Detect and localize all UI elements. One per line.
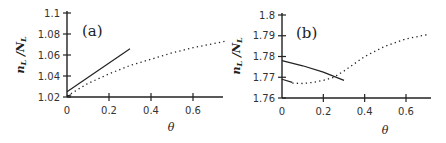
chart-panel-b: 1.761.771.781.791.800.20.40.6(b)nL /NLθ [230,10,431,138]
x-tick-label: 0.4 [143,105,159,116]
x-axis-label: θ [168,121,175,134]
x-tick-label: 0.4 [357,106,373,117]
y-tick-label: 1.1 [44,8,60,19]
panel-label: (a) [82,22,103,40]
x-tick-label: 0 [279,106,285,117]
y-tick-label: 1.04 [38,71,60,82]
series-solid [67,49,130,92]
x-tick-label: 0.2 [315,106,331,117]
y-tick-label: 1.02 [38,92,60,103]
y-tick-label: 1.8 [259,10,275,21]
y-tick-label: 1.79 [253,30,275,41]
y-tick-label: 1.77 [253,72,275,83]
x-tick-label: 0.2 [101,105,117,116]
y-tick-label: 1.76 [253,93,275,104]
chart-panel-a: 1.021.041.061.081.100.20.40.6(a)nL /NLθ [14,8,225,135]
figure: 1.021.041.061.081.100.20.40.6(a)nL /NLθ … [0,0,446,143]
y-tick-label: 1.78 [253,51,275,62]
y-tick-label: 1.08 [38,29,60,40]
panel-label: (b) [296,24,317,42]
series-dotted [67,41,225,96]
y-axis-label: nL /NL [14,36,28,74]
series-solid-upper [282,61,344,81]
series-solid-lower [282,79,292,82]
x-axis-label: θ [382,124,389,137]
y-axis-label: nL /NL [230,37,244,75]
series-dotted [292,35,426,84]
x-tick-label: 0 [64,105,70,116]
x-tick-label: 0.6 [185,105,201,116]
x-tick-label: 0.6 [398,106,414,117]
y-tick-label: 1.06 [38,50,60,61]
